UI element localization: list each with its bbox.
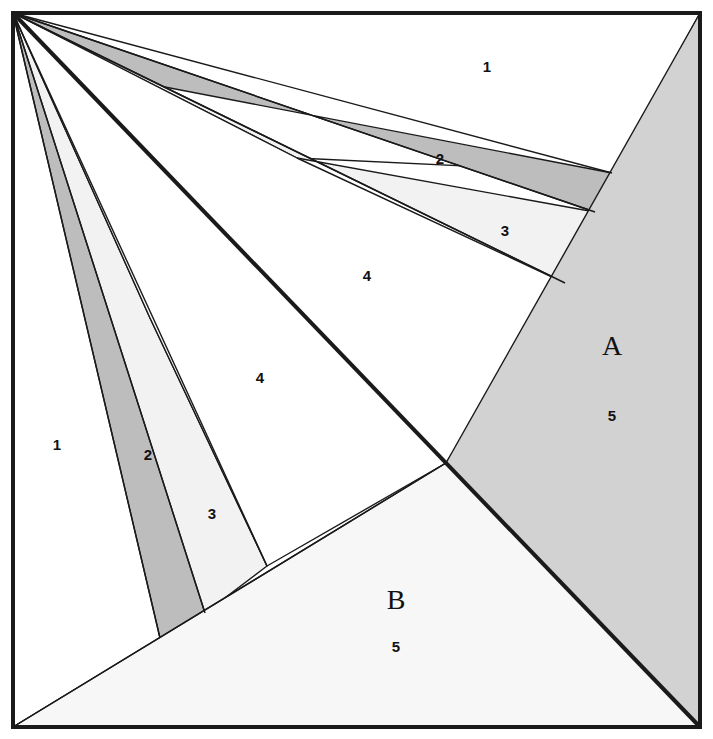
label-lower-3: 3 bbox=[208, 505, 216, 522]
label-upper-3: 3 bbox=[501, 222, 509, 239]
label-lower-1: 1 bbox=[53, 436, 61, 453]
label-lower-4: 4 bbox=[256, 369, 265, 386]
label-region-a: A bbox=[602, 330, 623, 361]
sublabel-region-a: 5 bbox=[608, 407, 616, 424]
figure-root: 1234A51234B5 bbox=[0, 0, 713, 739]
label-upper-2: 2 bbox=[436, 150, 444, 167]
sector-partition-diagram: 1234A51234B5 bbox=[0, 0, 713, 739]
label-region-b: B bbox=[387, 584, 406, 615]
label-upper-1: 1 bbox=[483, 58, 491, 75]
label-upper-4: 4 bbox=[363, 267, 372, 284]
sublabel-region-b: 5 bbox=[392, 638, 400, 655]
label-lower-2: 2 bbox=[144, 446, 152, 463]
